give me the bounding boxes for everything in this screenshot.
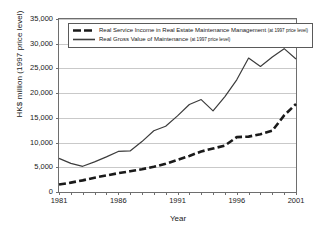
legend-item-service-income: Real Service Income in Real Estate Maint… (73, 26, 308, 35)
x-axis-tick-mark (213, 192, 214, 195)
x-axis-tick-mark (130, 192, 131, 195)
x-axis-tick-label: 1991 (158, 196, 198, 205)
y-axis-tick-label: 15,000 (7, 114, 53, 122)
x-axis-tick-mark (201, 192, 202, 195)
y-axis-tick-label: 30,000 (7, 40, 53, 48)
legend-label-service-income: Real Service Income in Real Estate Maint… (99, 27, 308, 34)
x-axis-tick-mark (225, 192, 226, 195)
series-line-gross-value (59, 49, 296, 167)
y-axis-tick-label: 5,000 (7, 163, 53, 171)
x-axis-tick-mark (178, 192, 179, 195)
x-axis-title: Year (58, 214, 298, 223)
x-axis-tick-mark (154, 192, 155, 195)
x-axis-tick-mark (189, 192, 190, 195)
x-axis-tick-mark (237, 192, 238, 195)
x-axis-tick-mark (83, 192, 84, 195)
dashed-line-swatch (73, 26, 95, 35)
x-axis-tick-mark (142, 192, 143, 195)
x-axis-tick-mark (260, 192, 261, 195)
y-axis-tick-label: 25,000 (7, 64, 53, 72)
x-axis-tick-label: 1986 (98, 196, 138, 205)
chart-legend: Real Service Income in Real Estate Maint… (68, 23, 313, 48)
chart-figure: HK$ million (1997 price level) 05,00010,… (0, 0, 313, 230)
plot-area: Real Service Income in Real Estate Maint… (58, 18, 297, 193)
legend-label-gross-value: Real Gross Value of Maintenance (at 1997… (99, 36, 230, 43)
x-axis-tick-label: 1981 (39, 196, 79, 205)
x-axis-tick-mark (59, 192, 60, 195)
x-axis-tick-mark (296, 192, 297, 195)
y-axis-tick-label: 20,000 (7, 89, 53, 97)
x-axis-tick-mark (95, 192, 96, 195)
x-axis-tick-mark (106, 192, 107, 195)
x-axis-tick-label: 2001 (276, 196, 313, 205)
legend-item-gross-value: Real Gross Value of Maintenance (at 1997… (73, 35, 308, 44)
x-axis-tick-mark (71, 192, 72, 195)
solid-line-swatch (73, 35, 95, 44)
x-axis-tick-label: 1996 (217, 196, 257, 205)
x-axis-tick-mark (249, 192, 250, 195)
x-axis-tick-mark (272, 192, 273, 195)
x-axis-tick-mark (118, 192, 119, 195)
x-axis-tick-mark (284, 192, 285, 195)
y-axis-tick-label: 10,000 (7, 139, 53, 147)
x-axis-tick-mark (166, 192, 167, 195)
y-axis-tick-label: 35,000 (7, 15, 53, 23)
y-axis-tick-label: 0 (7, 188, 53, 196)
